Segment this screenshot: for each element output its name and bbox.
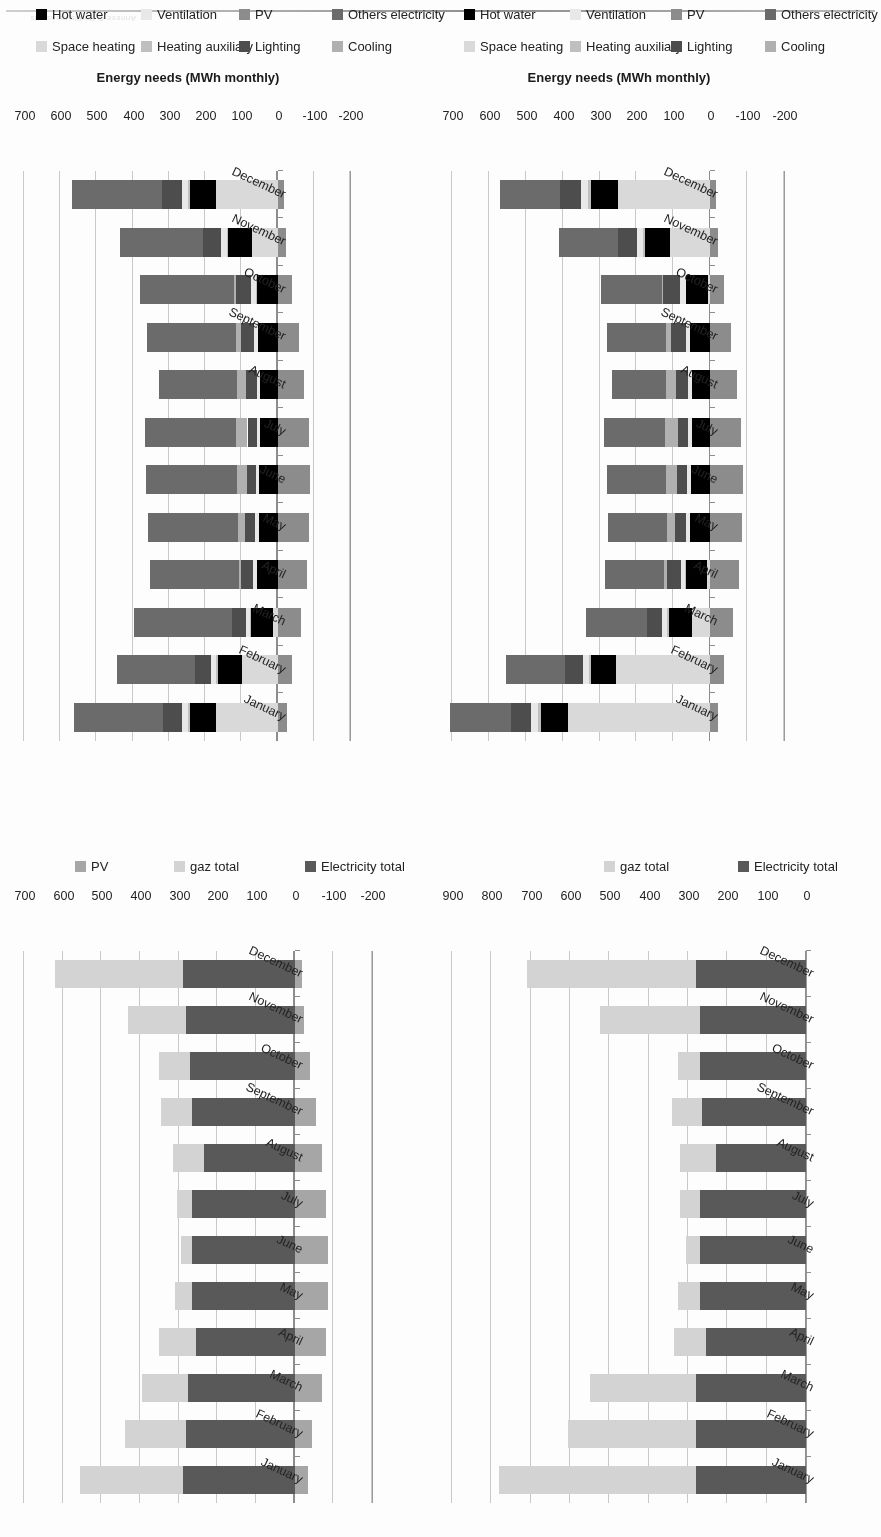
legend-label: PV: [687, 8, 704, 21]
legend-swatch: [671, 9, 682, 20]
legend-label: Ventilation: [586, 8, 646, 21]
bar-segment: [499, 1466, 696, 1495]
bar-segment: [159, 370, 237, 399]
legend-item: Electricity total: [738, 860, 838, 873]
legend-swatch: [75, 861, 86, 872]
category-tick: [278, 312, 283, 313]
legend-swatch: [239, 9, 250, 20]
bar-segment: [700, 1190, 806, 1219]
category-tick: [278, 217, 283, 218]
legend-item: Hot water: [464, 8, 536, 21]
category-tick: [710, 597, 715, 598]
bar-segment: [247, 465, 256, 494]
legend-label: Space heating: [480, 40, 563, 53]
category-tick: [278, 550, 283, 551]
bar-segment: [134, 608, 232, 637]
bar-segment: [607, 465, 666, 494]
gridline: [332, 951, 333, 1503]
bar-segment: [583, 655, 589, 684]
bar-segment: [142, 1374, 188, 1403]
category-tick: [295, 1134, 300, 1135]
legend-swatch: [141, 41, 152, 52]
legend-label: Space heating: [52, 40, 135, 53]
bar-segment: [163, 703, 182, 732]
bar-segment: [688, 418, 692, 447]
bar-segment: [239, 560, 241, 589]
legend-label: Ventilation: [157, 8, 217, 21]
bar-segment: [190, 180, 216, 209]
bar-segment: [672, 1098, 702, 1127]
category-tick: [806, 996, 811, 997]
bar-segment: [188, 180, 190, 209]
bar-segment: [216, 655, 218, 684]
legend-label: Cooling: [781, 40, 825, 53]
category-tick: [295, 1456, 300, 1457]
bar-segment: [227, 228, 228, 257]
legend-item: Lighting: [239, 40, 301, 53]
category-tick: [710, 455, 715, 456]
category-tick: [295, 950, 300, 951]
category-tick: [710, 692, 715, 693]
bar-segment: [677, 465, 687, 494]
gridline: [95, 171, 96, 741]
legend-item: Cooling: [765, 40, 825, 53]
bar-segment: [588, 180, 591, 209]
legend-label: Cooling: [348, 40, 392, 53]
legend-item: Ventilation: [570, 8, 646, 21]
legend-item: PV: [671, 8, 704, 21]
chart-top-left: 0100200300400500600700800900JanuaryFebru…: [445, 809, 863, 1509]
bar-segment: [192, 1190, 294, 1219]
chart-legend: Space heatingHeating auxiliaryLightingCo…: [445, 0, 863, 63]
category-tick: [710, 645, 715, 646]
category-tick: [710, 217, 715, 218]
category-tick: [806, 1134, 811, 1135]
plot-area: [25, 951, 373, 1503]
bar-segment: [680, 1144, 715, 1173]
legend-swatch: [174, 861, 185, 872]
legend-label: Lighting: [255, 40, 301, 53]
bar-segment: [678, 1052, 700, 1081]
category-tick: [295, 996, 300, 997]
axis-title: Energy needs (MWh monthly): [509, 70, 729, 85]
bar-segment: [686, 1236, 700, 1265]
bar-segment: [612, 370, 665, 399]
bar-segment: [255, 513, 258, 542]
legend-item: gaz total: [604, 860, 669, 873]
legend-label: Hot water: [52, 8, 108, 21]
bar-segment: [253, 560, 257, 589]
legend-swatch: [671, 41, 682, 52]
bar-segment: [117, 655, 195, 684]
legend-swatch: [305, 861, 316, 872]
bar-segment: [607, 323, 666, 352]
bar-segment: [700, 1282, 806, 1311]
legend-swatch: [570, 41, 581, 52]
bar-segment: [667, 560, 680, 589]
legend-label: Lighting: [687, 40, 733, 53]
bar-segment: [591, 655, 616, 684]
legend-swatch: [604, 861, 615, 872]
category-tick: [710, 407, 715, 408]
bar-segment: [589, 655, 591, 684]
bar-segment: [246, 608, 250, 637]
bar-segment: [159, 1052, 190, 1081]
legend-label: gaz total: [190, 860, 239, 873]
legend-item: Electricity total: [305, 860, 405, 873]
category-tick: [806, 1364, 811, 1365]
bar-segment: [560, 180, 581, 209]
bar-segment: [181, 1236, 193, 1265]
bar-segment: [667, 608, 668, 637]
bar-segment: [195, 655, 211, 684]
category-tick: [278, 597, 283, 598]
category-tick: [278, 502, 283, 503]
gridline: [100, 951, 101, 1503]
bar-segment: [241, 560, 253, 589]
gridline: [530, 951, 531, 1503]
category-tick: [295, 1180, 300, 1181]
bar-segment: [666, 323, 672, 352]
legend-item: Ventilation: [141, 8, 217, 21]
gridline: [490, 951, 491, 1503]
legend-label: Electricity total: [321, 860, 405, 873]
gridline: [23, 951, 24, 1503]
gridline: [371, 951, 372, 1503]
bar-segment: [685, 560, 686, 589]
